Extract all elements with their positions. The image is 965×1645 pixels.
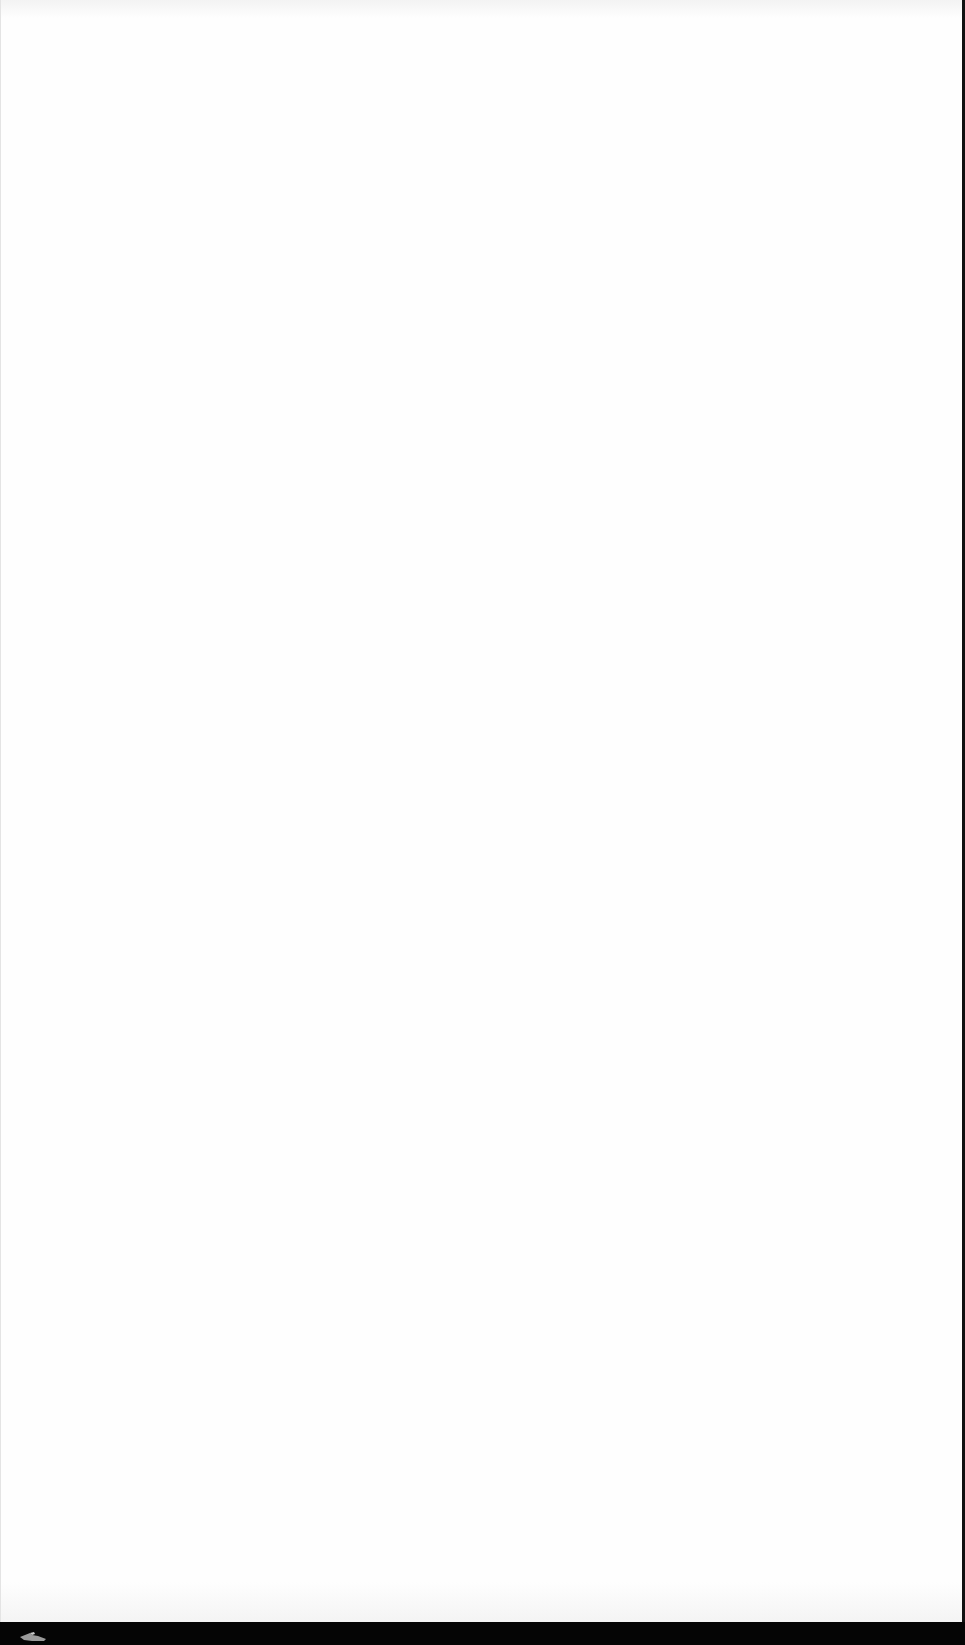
blank-page [0,0,962,1622]
page-top-shadow [1,0,962,18]
screen [0,0,965,1645]
pointer-hand-icon [18,1631,48,1643]
page-bottom-shadow [1,1582,962,1622]
bottom-bar [0,1622,965,1645]
